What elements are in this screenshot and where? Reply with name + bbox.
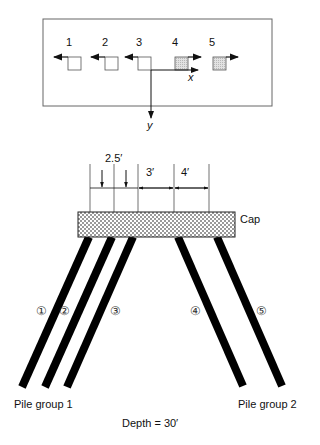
plan-label-1: 1 (66, 37, 72, 48)
plan-label-5: 5 (209, 37, 215, 48)
plan-pile-5 (213, 57, 238, 70)
dimension-label-3: 3′ (146, 167, 154, 178)
plan-label-2: 2 (102, 37, 108, 48)
pile-4 (178, 237, 243, 386)
plan-label-4: 4 (172, 37, 178, 48)
pile-marker-4: ④ (190, 305, 201, 317)
pile-5 (217, 237, 282, 386)
x-axis-label: x (188, 72, 194, 83)
pile-group-1-label: Pile group 1 (14, 399, 73, 410)
plan-label-3: 3 (136, 37, 142, 48)
plan-pile-2 (91, 57, 118, 70)
cap-label: Cap (240, 214, 260, 225)
pile-group-2-label: Pile group 2 (238, 399, 297, 410)
pile-marker-5: ⑤ (256, 305, 267, 317)
pile-marker-1: ① (36, 305, 47, 317)
dimension-label-2-5: 2.5′ (105, 153, 122, 164)
depth-label: Depth = 30′ (122, 418, 178, 429)
pile-marker-2: ② (59, 305, 70, 317)
plan-pile-1 (54, 57, 81, 70)
pile-marker-3: ③ (110, 305, 121, 317)
plan-pile-3 (125, 57, 151, 70)
pile-cap (78, 212, 235, 237)
plan-pile-4 (175, 57, 201, 70)
pile-group-diagram (0, 0, 320, 445)
y-axis-label: y (147, 120, 153, 131)
dimension-label-4: 4′ (181, 167, 189, 178)
